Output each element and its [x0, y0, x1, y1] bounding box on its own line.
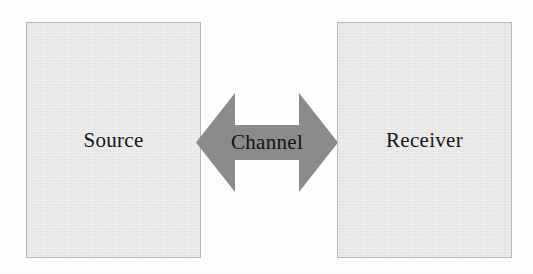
receiver-node-label: Receiver: [386, 130, 463, 151]
channel-connector[interactable]: [193, 90, 341, 195]
source-node[interactable]: Source: [26, 22, 201, 258]
receiver-node[interactable]: Receiver: [337, 22, 512, 258]
double-headed-arrow-icon: [193, 90, 341, 195]
diagram-canvas: Source Channel Receiver: [0, 0, 533, 274]
source-node-label: Source: [83, 130, 143, 151]
